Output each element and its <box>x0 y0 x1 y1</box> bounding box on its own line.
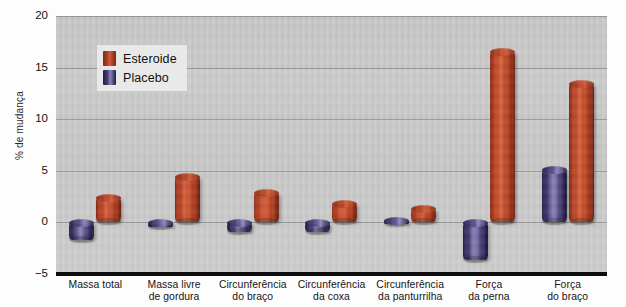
bar-group <box>450 16 529 274</box>
x-category-label-line: da coxa <box>292 291 371 303</box>
bar-base-ellipse <box>175 218 200 225</box>
bar-body <box>463 222 488 259</box>
x-category-label: Forçada perna <box>450 279 529 302</box>
x-category-label-line: da perna <box>450 291 529 303</box>
legend-label: Esteroide <box>123 52 177 66</box>
x-category-label-line: do braço <box>528 291 607 303</box>
y-tick-label: 15 <box>14 62 48 74</box>
bar-esteroide[interactable] <box>96 197 121 223</box>
bar-esteroide[interactable] <box>569 83 594 222</box>
x-category-label-line: Força <box>450 279 529 291</box>
bar-body <box>542 169 567 223</box>
bar-esteroide[interactable] <box>175 176 200 222</box>
x-axis-category-labels: Massa totalMassa livrede gorduraCircunfe… <box>56 279 607 307</box>
bar-top-ellipse <box>411 205 436 213</box>
bar-placebo[interactable] <box>148 222 173 226</box>
x-category-label: Circunferênciada coxa <box>292 279 371 302</box>
x-category-label: Circunferênciada panturrilha <box>371 279 450 302</box>
x-category-label-line: Massa livre <box>135 279 214 291</box>
bar-base-ellipse <box>227 228 252 235</box>
bar-group <box>292 16 371 274</box>
legend-item-esteroide[interactable]: Esteroide <box>103 49 177 68</box>
legend-swatch-icon <box>103 70 116 85</box>
bar-group <box>528 16 607 274</box>
bar-top-ellipse <box>569 80 594 88</box>
legend-label: Placebo <box>123 71 169 85</box>
bar-base-ellipse <box>490 218 515 225</box>
y-tick-label: 10 <box>14 113 48 125</box>
bar-group <box>371 16 450 274</box>
bar-top-ellipse <box>96 194 121 202</box>
bar-base-ellipse <box>96 218 121 225</box>
bar-esteroide[interactable] <box>332 203 357 223</box>
bar-body <box>569 83 594 222</box>
x-category-label-line: Massa total <box>56 279 135 291</box>
legend: EsteroidePlacebo <box>97 45 187 91</box>
x-category-label-line: Circunferência <box>371 279 450 291</box>
bar-esteroide[interactable] <box>254 192 279 222</box>
bar-base-ellipse <box>411 218 436 225</box>
bar-base-ellipse <box>569 218 594 225</box>
x-category-label-line: de gordura <box>135 291 214 303</box>
y-axis-tick-labels: 20151050−5 <box>8 0 48 307</box>
bar-base-ellipse <box>254 218 279 225</box>
bar-base-ellipse <box>305 228 330 235</box>
y-tick-label: −5 <box>14 268 48 280</box>
bar-placebo[interactable] <box>384 220 409 224</box>
legend-swatch-icon <box>103 51 116 66</box>
bar-base-ellipse <box>69 236 94 243</box>
bar-esteroide[interactable] <box>490 51 515 222</box>
bar-top-ellipse <box>542 166 567 174</box>
bar-base-ellipse <box>542 218 567 225</box>
x-category-label: Massa livrede gordura <box>135 279 214 302</box>
x-category-label-line: Circunferência <box>292 279 371 291</box>
y-tick-label: 5 <box>14 165 48 177</box>
y-tick-label: 0 <box>14 216 48 228</box>
x-category-label: Forçado braço <box>528 279 607 302</box>
x-category-label-line: Circunferência <box>213 279 292 291</box>
bar-top-ellipse <box>490 48 515 56</box>
bar-placebo[interactable] <box>305 222 330 231</box>
x-category-label-line: Força <box>528 279 607 291</box>
legend-item-placebo[interactable]: Placebo <box>103 68 177 87</box>
x-category-label: Circunferênciado braço <box>213 279 292 302</box>
y-tick-label: 20 <box>14 10 48 22</box>
bar-body <box>175 176 200 222</box>
bar-top-ellipse <box>175 173 200 181</box>
x-axis-line <box>56 272 607 276</box>
bar-body <box>490 51 515 222</box>
x-category-label: Massa total <box>56 279 135 291</box>
bar-placebo[interactable] <box>227 222 252 231</box>
bar-base-ellipse <box>463 256 488 263</box>
bar-chart-figure: % de mudança 20151050−5 EsteroidePlacebo… <box>0 0 626 307</box>
bar-placebo[interactable] <box>69 222 94 240</box>
bar-placebo[interactable] <box>542 169 567 223</box>
bar-base-ellipse <box>332 218 357 225</box>
bar-top-ellipse <box>332 200 357 208</box>
bar-group <box>213 16 292 274</box>
bar-placebo[interactable] <box>463 222 488 259</box>
x-category-label-line: da panturrilha <box>371 291 450 303</box>
x-category-label-line: do braço <box>213 291 292 303</box>
bar-esteroide[interactable] <box>411 208 436 222</box>
